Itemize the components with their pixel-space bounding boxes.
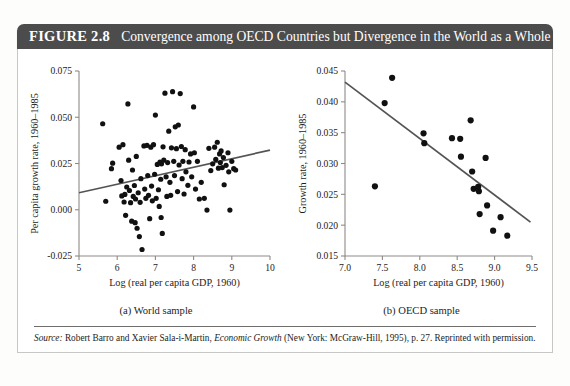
data-point [490,228,496,234]
data-point [497,214,503,220]
figure-title: Convergence among OECD Countries but Div… [110,29,550,45]
y-tick-label: 0.015 [316,250,338,261]
data-point [166,129,171,134]
data-point [160,144,165,149]
data-point [477,211,483,217]
data-point [120,142,125,147]
data-point [118,178,123,183]
data-point [215,140,220,145]
data-point [127,188,132,193]
data-point [233,167,238,172]
data-point [136,190,141,195]
data-point [193,186,198,191]
data-point [109,166,114,171]
y-tick-label: 0.025 [50,158,72,169]
data-point [145,173,150,178]
data-point [180,159,185,164]
data-point [121,199,126,204]
data-point [174,146,179,151]
data-point [210,161,215,166]
data-point [151,142,156,147]
data-point [156,187,161,192]
figure-number-label: FIGURE 2.8 [17,28,110,45]
x-tick-label: 8 [191,262,196,273]
y-axis-title: Per capita growth rate, 1960–1985 [29,93,40,234]
data-point [162,91,167,96]
x-tick-label: 9 [229,262,234,273]
data-point [219,148,224,153]
data-point [468,117,474,123]
chart-panel-oecd: 0.0150.0200.0250.0300.0350.0400.0457.07.… [294,49,549,301]
data-point [176,162,181,167]
data-point [157,204,162,209]
source-divider [34,326,536,327]
data-point [221,155,226,160]
y-tick-label: 0.040 [316,96,338,107]
x-tick-label: 8.5 [451,262,463,273]
data-point [159,215,164,220]
data-point [504,233,510,239]
x-tick-label: 9.0 [489,262,501,273]
data-point [130,167,135,172]
data-point [134,226,139,231]
data-point [191,104,196,109]
x-tick-label: 6 [115,262,120,273]
data-point [165,160,170,165]
y-axis-title: Growth rate, 1960–1985 [297,114,308,214]
data-point [126,158,131,163]
data-point [457,136,463,142]
data-point [476,188,482,194]
data-point [225,150,230,155]
data-point [152,172,157,177]
chart-panel-world: -0.0250.0000.0250.0500.0755678910Log (re… [22,49,290,301]
y-tick-label: 0.050 [50,112,72,123]
data-point [125,101,130,106]
data-point [227,208,232,213]
data-point [160,231,165,236]
y-tick-label: 0.030 [316,158,338,169]
data-point [197,196,202,201]
data-point [229,159,234,164]
charts-row: -0.0250.0000.0250.0500.0755678910Log (re… [18,49,552,301]
data-point [153,112,158,117]
data-point [189,174,194,179]
data-point [110,161,115,166]
data-point [226,169,231,174]
data-point [122,192,127,197]
data-point [175,189,180,194]
data-point [206,146,211,151]
data-point [142,186,147,191]
data-point [146,193,151,198]
data-point [170,89,175,94]
x-tick-label: 7.0 [339,262,351,273]
data-point [178,91,183,96]
y-tick-label: 0.035 [316,127,338,138]
data-point [449,135,455,141]
y-tick-label: 0.075 [50,65,72,76]
data-point [169,145,174,150]
data-point [100,121,105,126]
caption-panel-a: (a) World sample [22,305,290,316]
scatter-chart-oecd: 0.0150.0200.0250.0300.0350.0400.0457.07.… [294,49,549,301]
y-tick-label: 0.025 [316,189,338,200]
data-point [168,193,173,198]
x-axis-title: Log (real per capita GDP, 1960) [373,277,504,289]
data-point [199,180,204,185]
x-axis-title: Log (real per capita GDP, 1960) [109,277,240,289]
y-tick-label: 0.020 [316,220,338,231]
data-point [133,196,138,201]
data-point [458,154,464,160]
data-point [158,177,163,182]
figure-container: FIGURE 2.8 Convergence among OECD Countr… [17,24,553,354]
data-point [195,159,200,164]
data-point [147,216,152,221]
data-point [183,147,188,152]
data-point [421,140,427,146]
figure-body: -0.0250.0000.0250.0500.0755678910Log (re… [17,49,553,353]
source-note: Source: Robert Barro and Xavier Sala-i-M… [34,332,540,345]
source-publication: (New York: McGraw-Hill, 1995), p. 27. Re… [282,333,536,343]
data-point [132,183,137,188]
data-point [163,174,168,179]
data-point [149,183,154,188]
data-point [420,130,426,136]
